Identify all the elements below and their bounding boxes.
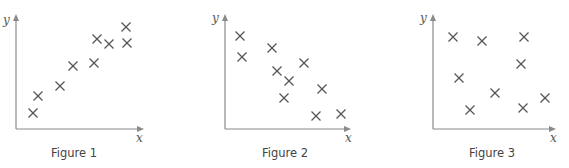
x-marker (519, 104, 528, 113)
x-marker (491, 89, 500, 98)
x-marker (123, 39, 132, 48)
figure-3-points (449, 33, 550, 115)
x-marker (300, 59, 309, 68)
x-marker (478, 37, 487, 46)
x-marker (285, 77, 294, 86)
x-marker (29, 109, 38, 118)
x-marker (93, 35, 102, 44)
figure-3-y-label: y (419, 11, 427, 25)
figure-3-axes (430, 14, 556, 132)
x-marker (520, 33, 529, 42)
x-marker (517, 60, 526, 69)
x-marker (105, 40, 114, 49)
x-marker (466, 106, 475, 115)
x-marker (236, 32, 245, 41)
figure-1-caption: Figure 1 (14, 146, 134, 160)
figure-1-points (29, 23, 132, 118)
figure-1-y-label: y (2, 13, 10, 27)
x-marker (449, 33, 458, 42)
figure-1-x-label: x (136, 131, 143, 145)
figure-2-axes (222, 14, 351, 132)
figure-2-y-label: y (211, 11, 219, 25)
x-marker (455, 74, 464, 83)
x-marker (318, 85, 327, 94)
x-marker (90, 59, 99, 68)
figure-2-points (236, 32, 346, 121)
x-marker (312, 112, 321, 121)
x-marker (541, 94, 550, 103)
x-marker (122, 23, 131, 32)
figure-2-caption: Figure 2 (225, 146, 345, 160)
x-marker (69, 62, 78, 71)
figure-1-axes (13, 14, 144, 132)
x-marker (56, 82, 65, 91)
figure-3-caption: Figure 3 (432, 146, 552, 160)
x-marker (34, 92, 43, 101)
scatter-figures: y x y x y x (0, 0, 569, 168)
x-marker (238, 53, 247, 62)
x-marker (273, 67, 282, 76)
figure-3-x-label: x (550, 131, 557, 145)
x-marker (337, 110, 346, 119)
figure-2-x-label: x (345, 131, 352, 145)
x-marker (268, 44, 277, 53)
x-marker (280, 94, 289, 103)
